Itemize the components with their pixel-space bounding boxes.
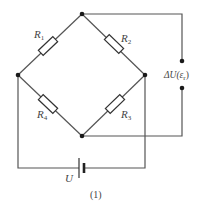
label-r4: R4 — [36, 108, 48, 122]
node-left — [16, 73, 21, 78]
label-r1: R1 — [33, 28, 45, 42]
label-supply-voltage: U — [65, 172, 74, 184]
node-right — [143, 73, 148, 78]
supply-loop — [18, 75, 145, 168]
output-terminal-top — [180, 59, 185, 64]
output-terminal-bottom — [180, 86, 185, 91]
bridge-circuit-diagram: R1 R2 R3 R4 ΔU(εr) U (1) — [0, 0, 200, 205]
node-bottom — [80, 134, 85, 139]
battery-icon — [79, 158, 84, 178]
node-top — [80, 12, 85, 17]
figure-caption: (1) — [90, 189, 102, 201]
label-r2: R2 — [120, 32, 132, 46]
label-r3: R3 — [120, 108, 132, 122]
label-output-voltage: ΔU(εr) — [163, 70, 189, 82]
